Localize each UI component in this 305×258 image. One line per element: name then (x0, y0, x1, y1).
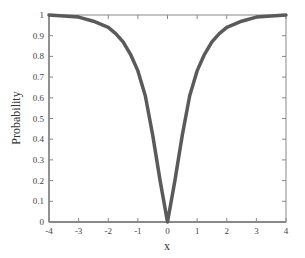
y-tick-label: 1 (40, 10, 45, 20)
y-tick-label: 0.4 (33, 134, 45, 144)
plot-frame (49, 15, 286, 222)
x-tick-label: 3 (254, 226, 259, 236)
y-tick-label: 0.6 (33, 93, 45, 103)
y-tick-label: 0.5 (33, 114, 45, 124)
x-tick-label: 0 (165, 226, 170, 236)
y-axis-ticks: 00.10.20.30.40.50.60.70.80.91 (33, 10, 286, 227)
y-tick-label: 0.3 (33, 155, 45, 165)
x-tick-label: 1 (195, 226, 200, 236)
probability-curve (49, 15, 286, 222)
x-tick-label: -1 (134, 226, 142, 236)
x-tick-label: -4 (45, 226, 53, 236)
y-axis-label: Probability (9, 91, 23, 144)
x-tick-label: 4 (284, 226, 289, 236)
y-tick-label: 0.9 (33, 31, 45, 41)
plot-border (49, 15, 286, 222)
x-tick-label: -3 (75, 226, 83, 236)
y-tick-label: 0.7 (33, 72, 45, 82)
x-axis-ticks: -4-3-2-101234 (45, 15, 289, 236)
probability-chart: -4-3-2-101234 00.10.20.30.40.50.60.70.80… (0, 0, 305, 258)
y-tick-label: 0 (40, 217, 45, 227)
y-tick-label: 0.2 (33, 176, 44, 186)
x-axis-label: x (164, 239, 170, 253)
x-tick-label: 2 (225, 226, 230, 236)
x-tick-label: -2 (105, 226, 113, 236)
y-tick-label: 0.8 (33, 51, 45, 61)
y-tick-label: 0.1 (33, 196, 44, 206)
